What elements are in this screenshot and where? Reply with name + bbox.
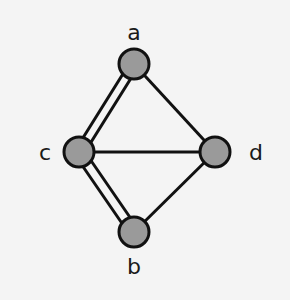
- label-c: c: [39, 140, 51, 165]
- graph-diagram: a c d b: [0, 0, 290, 300]
- node-c: [64, 137, 94, 167]
- label-d: d: [249, 140, 263, 165]
- label-a: a: [127, 20, 140, 45]
- node-a: [119, 49, 149, 79]
- node-b: [119, 217, 149, 247]
- label-b: b: [127, 254, 141, 279]
- node-d: [200, 137, 230, 167]
